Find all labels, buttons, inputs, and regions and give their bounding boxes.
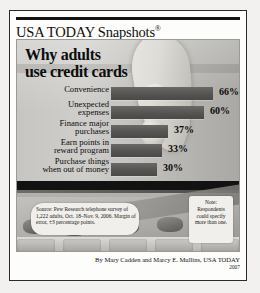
chart-row: Purchase things when out of money 30% (17, 163, 240, 179)
headline-line-1: Why adults (25, 46, 155, 63)
bar-value: 33% (168, 143, 188, 154)
registered-trademark-icon: ® (155, 24, 161, 33)
bar (111, 106, 204, 119)
note-callout: Note: Respondents could specify more tha… (189, 196, 233, 243)
snapshot-page: USA TODAY Snapshots® (0, 0, 260, 293)
bar-label-line-2: purchases (17, 127, 109, 135)
bar-value: 30% (163, 162, 183, 173)
bar-label-line-2: reward program (17, 146, 109, 154)
bar (111, 87, 213, 100)
bar (111, 125, 168, 138)
bar-label: Convenience (17, 85, 109, 93)
masthead-title-text: USA TODAY Snapshots (16, 24, 155, 40)
note-body: Respondents could specify more than one. (195, 206, 227, 226)
bar-label: Finance major purchases (17, 119, 109, 136)
bar-label-line-1: Convenience (17, 85, 109, 93)
bar-label-line-2: when out of money (17, 165, 109, 173)
calculator-key (17, 239, 55, 252)
calculator-key (155, 239, 193, 252)
source-text: Source: Pew Research telephone survey of… (36, 206, 136, 226)
bar-label: Earn points in reward program (17, 138, 109, 155)
bar (111, 163, 157, 176)
bar-chart: Convenience 66% Unexpected expenses 60% … (17, 87, 240, 182)
bar-label: Purchase things when out of money (17, 157, 109, 174)
headline: Why adults use credit cards (25, 46, 155, 80)
bar-label: Unexpected expenses (17, 100, 109, 117)
chart-photo-panel: Why adults use credit cards Convenience … (16, 39, 240, 252)
credit-year: 2007 (16, 264, 240, 270)
calculator-key (63, 239, 101, 252)
bar-label-line-2: expenses (17, 108, 109, 116)
calculator-key (157, 217, 183, 232)
note-text: Note: Respondents could specify more tha… (192, 199, 230, 226)
calculator-key (109, 239, 147, 252)
source-callout: Source: Pew Research telephone survey of… (31, 203, 139, 235)
bar-value: 37% (174, 124, 194, 135)
bar-value: 66% (219, 86, 239, 97)
headline-line-2: use credit cards (25, 63, 155, 80)
byline: By Mary Cadden and Marcy E. Mullins, USA… (16, 256, 240, 264)
bar-value: 60% (210, 105, 230, 116)
masthead-title: USA TODAY Snapshots® (16, 20, 240, 37)
note-heading: Note: (205, 199, 217, 205)
bar (111, 144, 162, 157)
